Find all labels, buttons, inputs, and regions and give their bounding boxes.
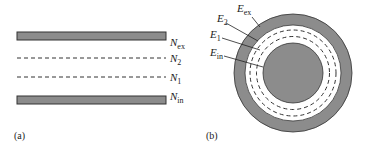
panel-a: Nex N2 N1 Nin (a) (14, 32, 185, 142)
label-e-1: E1 (209, 28, 221, 43)
panel-a-label: (a) (14, 130, 25, 142)
label-n-in: Nin (169, 90, 184, 105)
inner-layer-bar (17, 96, 166, 104)
label-n-ex: Nex (169, 36, 185, 51)
label-n-2: N2 (169, 52, 181, 67)
diagram-canvas: Nex N2 N1 Nin (a) Eex E2 E1 Ein (b) (0, 0, 369, 148)
label-e-in: Ein (209, 46, 223, 61)
panel-b-label: (b) (206, 130, 218, 142)
outer-layer-bar (17, 32, 166, 40)
label-e-ex: Eex (236, 2, 251, 17)
inner-disk (263, 43, 323, 103)
label-n-1: N1 (169, 71, 181, 86)
label-e-2: E2 (216, 12, 228, 27)
leader-e-ex (252, 17, 260, 27)
panel-b: Eex E2 E1 Ein (b) (206, 2, 352, 142)
